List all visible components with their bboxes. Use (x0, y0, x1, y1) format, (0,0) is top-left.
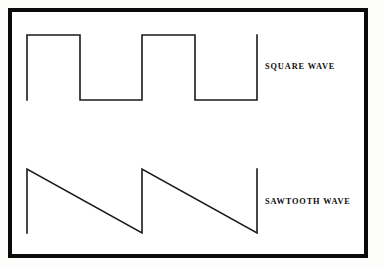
waveform-plot-area (0, 0, 384, 270)
sawtooth-wave-label: SAWTOOTH WAVE (265, 197, 351, 206)
figure-root: SQUARE WAVE SAWTOOTH WAVE (0, 0, 384, 270)
sawtooth-wave-trace (27, 169, 257, 233)
square-wave-label: SQUARE WAVE (265, 62, 335, 71)
square-wave-trace (27, 35, 257, 100)
